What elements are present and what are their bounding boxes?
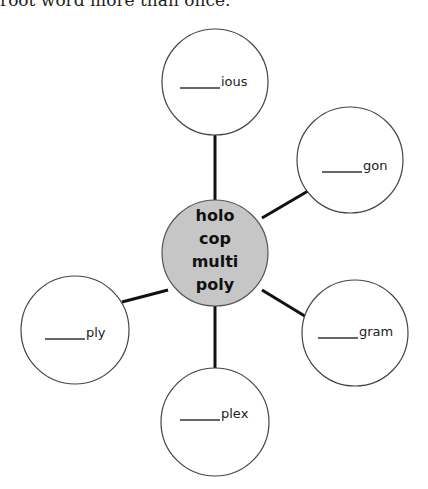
suffix-label: gon [363, 158, 387, 173]
node-ply: ply [21, 276, 129, 384]
node-ious: ious [162, 29, 268, 135]
root-word: cop [199, 229, 231, 248]
node-gon: gon [297, 107, 403, 213]
center-node: holo cop multi poly [162, 200, 268, 306]
suffix-label: plex [221, 406, 249, 421]
node-plex: plex [161, 368, 269, 476]
suffix-label: gram [359, 324, 393, 339]
node-gram: gram [302, 280, 408, 386]
root-word: poly [196, 275, 235, 294]
connector-lower-right [262, 290, 308, 318]
root-word: holo [196, 206, 235, 225]
root-word: multi [192, 252, 239, 271]
connector-left [122, 290, 168, 302]
connector-upper-right [262, 191, 308, 218]
suffix-label: ply [86, 325, 106, 340]
word-web-diagram: ious gon gram plex ply holo cop multi po… [0, 0, 428, 489]
suffix-label: ious [221, 74, 248, 89]
